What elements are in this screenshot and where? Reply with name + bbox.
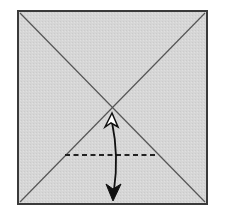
origami-diagram: [0, 0, 226, 222]
